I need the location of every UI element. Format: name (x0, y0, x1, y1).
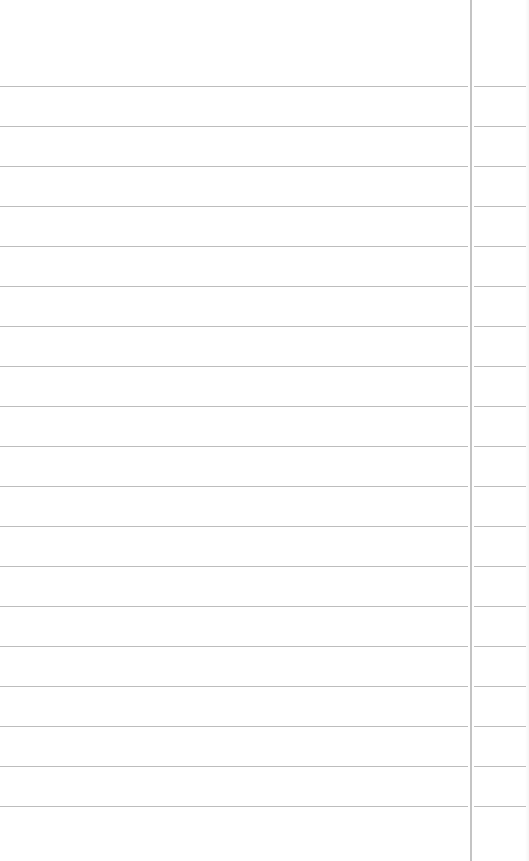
ruled-line (0, 446, 529, 447)
ruled-line (0, 486, 529, 487)
ruled-line (0, 726, 529, 727)
ruled-line (0, 526, 529, 527)
ruled-line (0, 326, 529, 327)
lined-paper (0, 0, 529, 861)
ruled-line (0, 566, 529, 567)
ruled-line (0, 206, 529, 207)
ruled-line (0, 166, 529, 167)
ruled-line (0, 286, 529, 287)
ruled-line (0, 246, 529, 247)
ruled-line (0, 806, 529, 807)
ruled-line (0, 646, 529, 647)
ruled-line (0, 366, 529, 367)
ruled-line (0, 766, 529, 767)
ruled-line (0, 126, 529, 127)
ruled-line (0, 606, 529, 607)
ruled-line (0, 86, 529, 87)
page-edge-shadow (525, 0, 529, 861)
ruled-line (0, 406, 529, 407)
margin-line (470, 0, 472, 861)
ruled-line (0, 686, 529, 687)
